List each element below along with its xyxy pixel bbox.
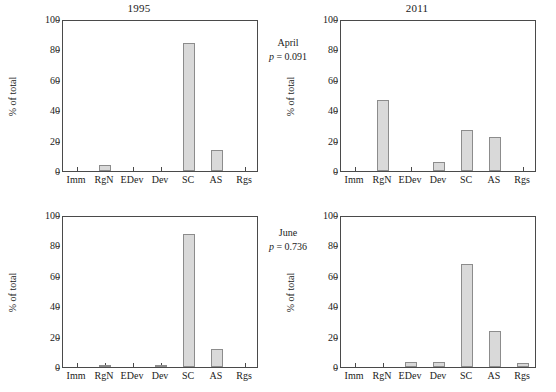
x-tick-mark: [77, 363, 78, 367]
y-tick-mark: [56, 142, 60, 143]
y-tick-mark: [334, 307, 338, 308]
y-tick-mark: [334, 246, 338, 247]
panel-title-2011: 2011: [278, 2, 556, 14]
x-tick-mark: [383, 363, 384, 367]
y-tick-mark: [334, 216, 338, 217]
x-tick-label: Rgs: [236, 370, 252, 381]
x-tick-label: Rgs: [236, 174, 252, 185]
annotation-pvalue-june: p = 0.736: [248, 240, 328, 254]
x-tick-label: Dev: [430, 370, 447, 381]
annotation-month-april: April: [248, 36, 328, 50]
bar-sc: [461, 130, 474, 171]
x-tick-mark: [133, 363, 134, 367]
x-tick-label: Imm: [345, 174, 364, 185]
x-tick-label: EDev: [121, 370, 144, 381]
x-tick-label: AS: [210, 370, 223, 381]
annotation-april: April p = 0.091: [248, 36, 328, 63]
panel-top-left: 1995 % of total 020406080100 ImmRgNEDevD…: [0, 0, 278, 196]
y-tick-mark: [56, 111, 60, 112]
y-tick-mark: [56, 172, 60, 173]
x-tick-mark: [245, 363, 246, 367]
y-tick-mark: [334, 111, 338, 112]
x-tick-mark: [245, 167, 246, 171]
y-axis-ticks: 020406080100: [28, 216, 60, 368]
x-tick-label: Rgs: [514, 370, 530, 381]
x-tick-mark: [133, 167, 134, 171]
x-tick-label: EDev: [399, 174, 422, 185]
y-tick-mark: [56, 50, 60, 51]
x-tick-label: SC: [460, 174, 472, 185]
x-tick-label: Imm: [345, 370, 364, 381]
y-tick-mark: [334, 172, 338, 173]
x-tick-mark: [161, 167, 162, 171]
x-tick-label: Dev: [152, 370, 169, 381]
x-tick-label: Rgs: [514, 174, 530, 185]
bar-dev: [433, 162, 446, 171]
x-tick-mark: [355, 167, 356, 171]
x-tick-label: AS: [210, 174, 223, 185]
y-tick-mark: [334, 338, 338, 339]
y-tick-mark: [334, 368, 338, 369]
x-axis-labels-bottom-left: ImmRgNEDevDevSCASRgs: [62, 370, 258, 388]
bar-dev: [433, 362, 446, 367]
y-tick-mark: [334, 81, 338, 82]
y-tick-mark: [56, 338, 60, 339]
x-axis-labels-top-left: ImmRgNEDevDevSCASRgs: [62, 174, 258, 192]
panel-bottom-left: % of total 020406080100 ImmRgNEDevDevSCA…: [0, 196, 278, 392]
x-tick-label: RgN: [373, 370, 392, 381]
y-axis-label: % of total: [6, 20, 20, 172]
y-tick-mark: [56, 368, 60, 369]
bar-rgn: [377, 100, 390, 171]
x-tick-label: SC: [182, 174, 194, 185]
bar-rgs: [517, 363, 530, 367]
y-tick-mark: [56, 307, 60, 308]
x-tick-mark: [77, 167, 78, 171]
y-tick-mark: [334, 142, 338, 143]
y-axis-label: % of total: [6, 216, 20, 368]
y-axis-ticks: 020406080100: [28, 20, 60, 172]
bar-rgn: [99, 365, 112, 367]
x-tick-label: RgN: [95, 370, 114, 381]
bar-rgn: [99, 165, 112, 171]
bar-sc: [183, 234, 196, 367]
y-tick-mark: [56, 246, 60, 247]
x-tick-label: AS: [488, 174, 501, 185]
y-tick-mark: [334, 50, 338, 51]
x-tick-label: SC: [460, 370, 472, 381]
plot-area-bottom-right: [340, 216, 536, 368]
plot-area-top-right: [340, 20, 536, 172]
bar-as: [489, 137, 502, 171]
x-axis-labels-top-right: ImmRgNEDevDevSCASRgs: [340, 174, 536, 192]
x-tick-label: AS: [488, 370, 501, 381]
x-tick-mark: [355, 363, 356, 367]
x-tick-label: Imm: [67, 370, 86, 381]
y-tick-mark: [56, 81, 60, 82]
y-tick-mark: [334, 20, 338, 21]
y-tick-mark: [334, 277, 338, 278]
x-tick-mark: [523, 167, 524, 171]
plot-area-bottom-left: [62, 216, 258, 368]
annotation-june: June p = 0.736: [248, 226, 328, 253]
x-tick-mark: [411, 167, 412, 171]
x-tick-label: Dev: [152, 174, 169, 185]
x-tick-label: Dev: [430, 174, 447, 185]
x-tick-label: EDev: [121, 174, 144, 185]
y-tick-mark: [56, 277, 60, 278]
y-tick-mark: [56, 216, 60, 217]
bar-edev: [405, 362, 418, 367]
annotation-pvalue-april: p = 0.091: [248, 50, 328, 64]
panel-top-right: 2011 % of total 020406080100 ImmRgNEDevD…: [278, 0, 556, 196]
y-tick-mark: [56, 20, 60, 21]
x-tick-label: SC: [182, 370, 194, 381]
x-tick-label: RgN: [373, 174, 392, 185]
bar-as: [489, 331, 502, 367]
plot-area-top-left: [62, 20, 258, 172]
bar-as: [211, 349, 224, 367]
bar-sc: [461, 264, 474, 367]
bar-dev: [155, 365, 168, 367]
panel-title-1995: 1995: [0, 2, 278, 14]
x-tick-label: Imm: [67, 174, 86, 185]
x-tick-label: RgN: [95, 174, 114, 185]
annotation-month-june: June: [248, 226, 328, 240]
bar-as: [211, 150, 224, 171]
